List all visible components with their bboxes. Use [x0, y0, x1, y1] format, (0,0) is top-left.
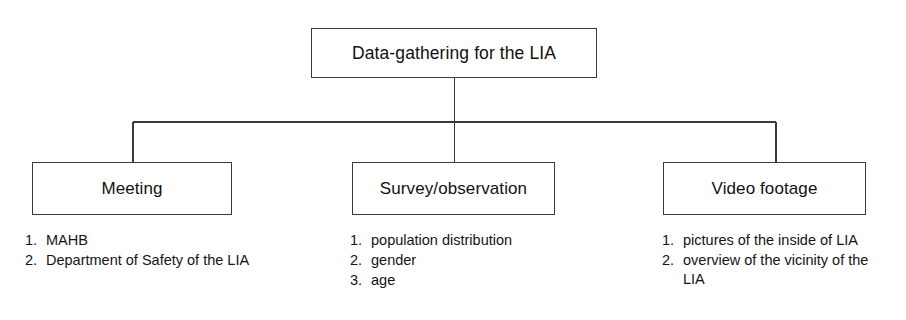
detail-list-video-footage: 1. pictures of the inside of LIA 2. over… — [662, 231, 877, 290]
list-item-text: age — [371, 271, 570, 290]
list-item: 2. Department of Safety of the LIA — [25, 251, 253, 270]
list-item-index: 2. — [662, 251, 681, 270]
list-item: 2. gender — [350, 251, 570, 270]
child-node-label: Video footage — [712, 179, 818, 199]
list-item: 1. pictures of the inside of LIA — [662, 231, 877, 250]
list-item-index: 2. — [25, 251, 44, 270]
child-node-box-survey-observation: Survey/observation — [352, 162, 555, 215]
list-item: 1. population distribution — [350, 231, 570, 250]
list-item-text: gender — [371, 251, 570, 270]
list-item-text: MAHB — [46, 231, 253, 250]
list-item: 3. age — [350, 271, 570, 290]
root-node-label: Data-gathering for the LIA — [352, 43, 556, 63]
child-node-box-video-footage: Video footage — [663, 162, 866, 215]
list-item-text: population distribution — [371, 231, 570, 250]
list-item-text: pictures of the inside of LIA — [683, 231, 877, 250]
detail-list-meeting: 1. MAHB 2. Department of Safety of the L… — [25, 231, 253, 271]
child-node-box-meeting: Meeting — [32, 162, 232, 215]
list-item-text: overview of the vicinity of the LIA — [683, 251, 877, 289]
list-item-index: 3. — [350, 271, 369, 290]
child-node-label: Survey/observation — [380, 179, 527, 199]
root-node-box: Data-gathering for the LIA — [311, 28, 597, 78]
diagram-canvas: Data-gathering for the LIA Meeting Surve… — [0, 0, 906, 320]
list-item: 2. overview of the vicinity of the LIA — [662, 251, 877, 289]
list-item-text: Department of Safety of the LIA — [46, 251, 253, 270]
detail-list-survey-observation: 1. population distribution 2. gender 3. … — [350, 231, 570, 291]
list-item-index: 2. — [350, 251, 369, 270]
list-item-index: 1. — [662, 231, 681, 250]
list-item-index: 1. — [350, 231, 369, 250]
list-item-index: 1. — [25, 231, 44, 250]
child-node-label: Meeting — [101, 179, 162, 199]
list-item: 1. MAHB — [25, 231, 253, 250]
